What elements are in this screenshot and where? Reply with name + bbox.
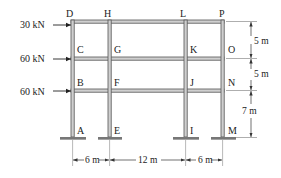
node-K: K — [190, 44, 198, 55]
node-I: I — [190, 125, 193, 136]
dim-horizontal-3: 6 m — [198, 155, 213, 165]
frame-diagram: D H L P C G K O B F J N A E I M 30 kN 60… — [0, 0, 281, 178]
dim-horizontal-1: 6 m — [85, 155, 100, 165]
node-M: M — [228, 125, 237, 136]
beam-D-P — [71, 20, 224, 23]
beams — [71, 20, 224, 92]
support-I — [173, 137, 199, 140]
column-M-P — [221, 20, 224, 137]
beam-B-N — [71, 89, 224, 92]
support-E — [98, 137, 122, 140]
column-E-H — [108, 20, 111, 137]
load-label-B: 60 kN — [20, 86, 45, 97]
node-C: C — [77, 44, 84, 55]
node-F: F — [114, 77, 120, 88]
node-N: N — [228, 77, 235, 88]
node-E: E — [114, 125, 120, 136]
column-I-L — [184, 20, 187, 137]
node-H: H — [104, 8, 111, 19]
node-P: P — [219, 8, 225, 19]
column-A-D — [71, 20, 74, 137]
dim-vertical-2: 5 m — [254, 69, 269, 79]
node-B: B — [77, 77, 84, 88]
dim-horizontal-2: 12 m — [138, 155, 158, 165]
node-J: J — [190, 77, 194, 88]
columns — [71, 20, 224, 137]
fixed-supports — [60, 137, 236, 140]
horizontal-dimensions: 6 m 12 m 6 m — [73, 140, 223, 166]
node-L: L — [180, 8, 186, 19]
support-A — [60, 137, 86, 140]
loads: 30 kN 60 kN 60 kN — [20, 19, 71, 97]
node-A: A — [77, 125, 85, 136]
dim-vertical-1: 5 m — [254, 36, 269, 46]
load-label-C: 60 kN — [20, 53, 45, 64]
beam-C-O — [71, 57, 224, 60]
node-O: O — [228, 44, 235, 55]
node-G: G — [114, 44, 121, 55]
dim-vertical-3: 7 m — [242, 106, 257, 116]
node-D: D — [66, 8, 73, 19]
node-labels: D H L P C G K O B F J N A E I M — [66, 8, 237, 136]
load-label-D: 30 kN — [20, 19, 45, 30]
